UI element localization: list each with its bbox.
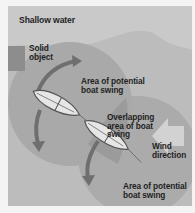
shallow-water-label: Shallow water — [19, 16, 75, 25]
diagram-frame: Shallow water Solid object Area of poten… — [0, 0, 195, 213]
shallow-water-area: Shallow water Solid object Area of poten… — [8, 6, 192, 206]
area-top-label: Area of potential boat swing — [81, 77, 145, 94]
label-line: boat swing — [81, 86, 145, 95]
area-bottom-label: Area of potential boat swing — [123, 182, 187, 199]
solid-object — [8, 46, 25, 71]
solid-object-label: Solid object — [29, 44, 53, 61]
label-line: swing — [107, 130, 154, 139]
label-line: direction — [152, 151, 186, 160]
wind-direction-label: Wind direction — [152, 142, 186, 159]
boat-swing-illustration — [8, 6, 192, 206]
label-line: object — [29, 53, 53, 62]
overlap-label: Overlapping area of boat swing — [107, 113, 154, 139]
label-line: boat swing — [123, 191, 187, 200]
